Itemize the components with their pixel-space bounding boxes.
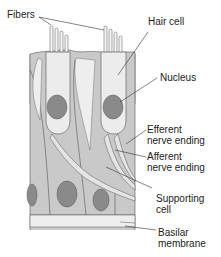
label-nucleus: Nucleus [160,72,196,83]
label-basilar-membrane: Basilar membrane [158,227,206,249]
label-afferent: Afferent nerve ending [147,151,205,173]
nucleus-right [103,95,123,119]
nucleus-left [47,95,67,119]
supporting-nucleus-1 [27,184,37,206]
fibers-right [104,26,122,52]
hair-cell-right [101,52,126,134]
label-supporting-cell: Supporting cell [156,193,204,215]
label-hair-cell: Hair cell [148,16,184,27]
label-fibers: Fibers [7,9,35,20]
supporting-nucleus-3 [93,189,109,211]
supporting-nucleus-2 [57,181,77,207]
label-efferent: Efferent nerve ending [147,124,205,146]
basilar-membrane [30,215,135,227]
hair-cell-left [46,52,70,134]
fibers-left [50,26,68,52]
